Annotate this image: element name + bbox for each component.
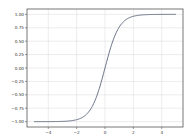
x-tick-label: 4	[160, 130, 163, 135]
x-tick-label: −2	[74, 130, 81, 135]
y-tick-label: −0.75	[11, 106, 24, 111]
y-tick-label: −0.50	[11, 92, 24, 97]
x-tick-label: 2	[132, 130, 135, 135]
y-tick-label: 0.00	[15, 66, 25, 71]
x-tick-label: 0	[104, 130, 107, 135]
y-tick-label: −1.00	[11, 119, 24, 124]
y-tick-label: 0.25	[15, 52, 25, 57]
tanh-line-chart: −4−2024 −1.00−0.75−0.50−0.250.000.250.50…	[0, 0, 192, 140]
x-tick-label: −4	[45, 130, 52, 135]
y-tick-label: 0.50	[15, 39, 25, 44]
y-tick-label: −0.25	[11, 79, 24, 84]
x-axis: −4−2024	[45, 127, 163, 135]
y-tick-label: 0.75	[15, 25, 25, 30]
y-tick-label: 1.00	[15, 12, 25, 17]
y-axis: −1.00−0.75−0.50−0.250.000.250.500.751.00	[11, 12, 27, 124]
